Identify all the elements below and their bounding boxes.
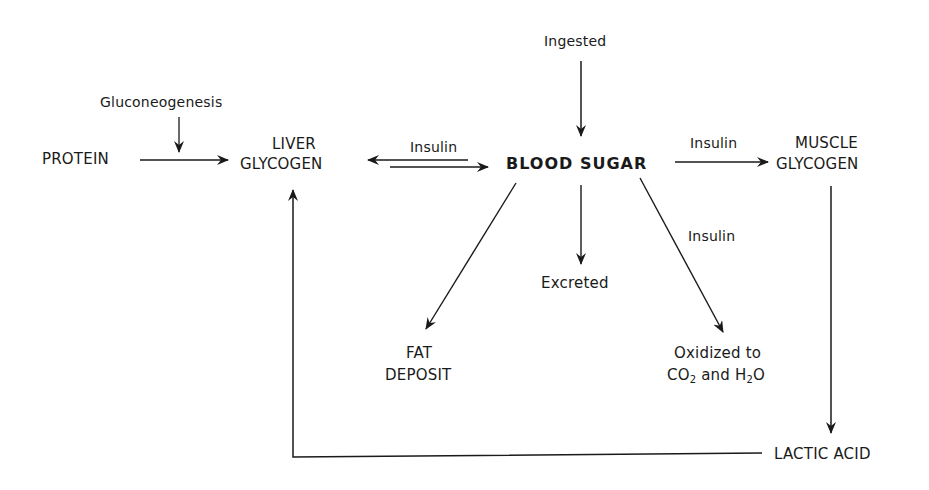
label-insulin-blood-muscle: Insulin bbox=[690, 134, 737, 153]
label-gluconeogenesis: Gluconeogenesis bbox=[100, 93, 222, 112]
label-ingested: Ingested bbox=[544, 32, 606, 51]
node-lactic-acid: LACTIC ACID bbox=[774, 445, 871, 464]
node-oxidized-line1: Oxidized to bbox=[674, 344, 761, 363]
node-liver-glycogen-line2: GLYCOGEN bbox=[240, 155, 323, 174]
node-muscle-glycogen-line2: GLYCOGEN bbox=[776, 155, 859, 174]
node-oxidized-line2: CO2 and H2O bbox=[667, 366, 765, 385]
label-insulin-blood-oxidized: Insulin bbox=[688, 227, 735, 246]
node-protein: PROTEIN bbox=[42, 150, 109, 169]
arrow-blood-fat bbox=[426, 183, 516, 329]
node-liver-glycogen-line1: LIVER bbox=[272, 135, 316, 154]
node-fat-deposit-line1: FAT bbox=[406, 344, 432, 363]
node-blood-sugar: BLOOD SUGAR bbox=[506, 154, 647, 173]
arrow-blood-oxidized bbox=[640, 178, 723, 332]
node-fat-deposit-line2: DEPOSIT bbox=[385, 366, 451, 385]
node-muscle-glycogen-line1: MUSCLE bbox=[795, 134, 858, 153]
label-insulin-liver-blood: Insulin bbox=[410, 138, 457, 157]
diagram-arrows bbox=[0, 0, 929, 490]
node-excreted: Excreted bbox=[541, 274, 609, 293]
